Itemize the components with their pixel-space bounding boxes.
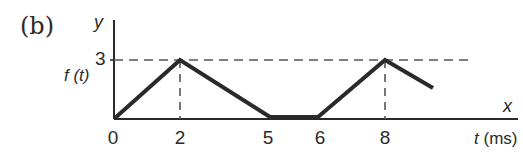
y-tick-label: 3 [95, 49, 106, 68]
time-axis-unit: (ms) [483, 129, 517, 148]
time-axis-variable: t [474, 129, 479, 148]
time-axis-label: t (ms) [474, 130, 517, 147]
chart-figure: (b) y 3 f (t) x 0 2 5 6 8 t (ms) [0, 0, 523, 163]
y-axis-label: y [94, 13, 103, 31]
x-tick-label-2: 2 [175, 128, 186, 147]
x-tick-label-0: 0 [108, 128, 119, 147]
panel-label: (b) [20, 14, 54, 38]
x-tick-label-8: 8 [380, 128, 391, 147]
function-label: f (t) [64, 67, 90, 84]
x-tick-label-6: 6 [315, 128, 326, 147]
x-axis-label: x [503, 97, 512, 115]
x-tick-label-5: 5 [263, 128, 274, 147]
